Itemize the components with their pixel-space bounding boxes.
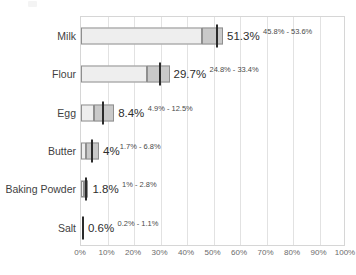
corner-artifact: [28, 1, 37, 7]
category-label: Milk: [57, 30, 76, 42]
value-label: 0.6%: [88, 222, 114, 234]
value-label: 51.3%: [227, 30, 260, 42]
chart-row: Flour29.7%24.8% - 33.4%: [81, 55, 344, 93]
x-axis: 0%10%20%30%40%50%60%70%80%90%100%: [80, 248, 345, 264]
chart-row: Baking Powder1.8%1% - 2.8%: [81, 170, 344, 208]
category-label: Egg: [57, 107, 76, 119]
bar-segment-main: [81, 28, 202, 45]
ci-label: 24.8% - 33.4%: [210, 66, 259, 75]
bar-chart: Milk51.3%45.8% - 53.6%Flour29.7%24.8% - …: [0, 0, 356, 275]
x-tick-label: 50%: [204, 248, 220, 257]
estimate-marker: [216, 25, 218, 48]
chart-row: Butter4%1.7% - 6.8%: [81, 132, 344, 170]
chart-row: Egg8.4%4.9% - 12.5%: [81, 94, 344, 132]
estimate-marker: [85, 178, 87, 201]
estimate-marker: [91, 140, 93, 163]
plot-area: Milk51.3%45.8% - 53.6%Flour29.7%24.8% - …: [80, 16, 345, 246]
bar-group: [81, 181, 88, 198]
bar-group: [81, 219, 84, 236]
bar-group: [81, 28, 223, 45]
category-label: Flour: [52, 68, 76, 80]
x-tick-label: 70%: [257, 248, 273, 257]
x-tick-label: 40%: [178, 248, 194, 257]
ci-label: 0.2% - 1.1%: [118, 219, 159, 228]
chart-row: Salt0.6%0.2% - 1.1%: [81, 209, 344, 247]
estimate-marker: [159, 63, 161, 86]
value-label: 4%: [103, 145, 120, 157]
value-label: 1.8%: [92, 183, 118, 195]
x-tick-label: 10%: [98, 248, 114, 257]
x-tick-label: 30%: [151, 248, 167, 257]
ci-label: 1% - 2.8%: [122, 181, 157, 190]
x-tick-label: 100%: [335, 248, 355, 257]
ci-label: 4.9% - 12.5%: [148, 104, 193, 113]
category-label: Baking Powder: [5, 183, 76, 195]
x-tick-label: 20%: [125, 248, 141, 257]
bar-segment-main: [81, 104, 94, 121]
x-tick-label: 60%: [231, 248, 247, 257]
bar-group: [81, 143, 99, 160]
x-tick-label: 80%: [284, 248, 300, 257]
ci-label: 1.7% - 6.8%: [120, 143, 161, 152]
value-label: 29.7%: [174, 68, 207, 80]
value-label: 8.4%: [118, 107, 144, 119]
ci-label: 45.8% - 53.6%: [263, 28, 312, 37]
bar-group: [81, 66, 170, 83]
x-tick-label: 90%: [310, 248, 326, 257]
category-label: Butter: [48, 145, 76, 157]
estimate-marker: [82, 216, 84, 239]
category-label: Salt: [58, 222, 76, 234]
bar-segment-main: [81, 66, 147, 83]
confidence-interval-band: [202, 28, 223, 45]
estimate-marker: [102, 101, 104, 124]
x-tick-label: 0%: [74, 248, 86, 257]
chart-row: Milk51.3%45.8% - 53.6%: [81, 17, 344, 55]
bar-group: [81, 104, 114, 121]
